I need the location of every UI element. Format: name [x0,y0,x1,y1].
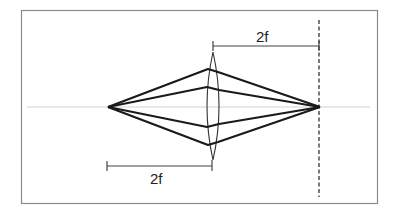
top-dimension-label: 2f [256,29,269,44]
bottom-dimension-label: 2f [150,171,163,186]
lens-ray-diagram [0,0,397,216]
